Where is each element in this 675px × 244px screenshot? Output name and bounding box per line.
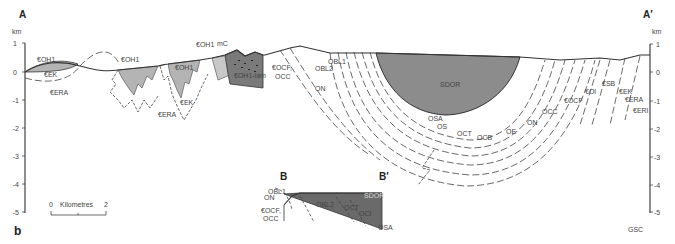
unit-label: €EK xyxy=(619,88,633,95)
unit-label: €OCF, xyxy=(272,64,292,71)
unit-label: €ERI xyxy=(633,107,649,114)
unit-label: €OH1 xyxy=(121,56,139,63)
tick: 0 xyxy=(656,69,660,76)
unit-label: OSA xyxy=(428,115,443,122)
scale-max: 2 xyxy=(104,201,108,208)
scale-label: Kilometres xyxy=(60,201,94,208)
tick: -5 xyxy=(654,209,660,216)
jagged-contacts xyxy=(110,66,434,185)
unit-label: OCI xyxy=(359,210,372,217)
left-depth-axis: km 1 0 -1 -2 -3 -4 -5 xyxy=(12,28,25,216)
unit-label: mC xyxy=(217,40,228,47)
unit-label: OCT xyxy=(457,130,473,137)
unit-label: OCC xyxy=(275,73,291,80)
tick: -5 xyxy=(13,209,19,216)
unit-label: €OCF, xyxy=(261,207,281,214)
unit-label: ON xyxy=(264,194,275,201)
unit-label: €EK xyxy=(180,99,194,106)
tick: 0 xyxy=(13,69,17,76)
unit-label: SDOR xyxy=(440,81,460,88)
tick: -3 xyxy=(13,153,19,160)
unit-label: €OI xyxy=(585,88,596,95)
tick: -4 xyxy=(654,182,660,189)
scale-bar: 0 Kilometres 2 xyxy=(49,201,108,215)
unit-label: OBL2 xyxy=(315,65,333,72)
unit-label: OS xyxy=(437,123,447,130)
inset-section-B: B B′ OBL1 ON €OCF, OCC OBL2 OCT OCI OSA … xyxy=(261,171,393,231)
unit-label: €EK xyxy=(44,71,58,78)
tick: -1 xyxy=(13,97,19,104)
unit-label: OCC xyxy=(542,108,558,115)
tick: 1 xyxy=(13,40,17,47)
unit-label: €OH1 xyxy=(175,64,193,71)
section-start-label-A: A xyxy=(19,9,26,20)
unit-label: €OH1 xyxy=(196,41,214,48)
unit-label: €OCF xyxy=(564,97,583,104)
unit-label: OSA xyxy=(378,224,393,231)
unit-label: €OH1-lam xyxy=(234,72,266,79)
panel-label: b xyxy=(14,224,21,238)
unit-label: OBL2 xyxy=(316,201,334,208)
tick: -3 xyxy=(654,154,660,161)
tick: -4 xyxy=(13,181,19,188)
right-depth-axis: km 1 0 -1 -2 -3 -4 -5 xyxy=(650,28,662,216)
tick: -2 xyxy=(654,126,660,133)
unit-label: €OH1 xyxy=(37,56,55,63)
unit-label: SDOR xyxy=(364,192,384,199)
axis-unit-right: km xyxy=(652,28,662,35)
cross-section-figure: A A′ km 1 0 -1 -2 -3 -4 -5 km 1 0 -1 -2 xyxy=(0,0,675,244)
unit-label: OE xyxy=(506,128,516,135)
tick: -2 xyxy=(13,125,19,132)
section-start-label-B: B xyxy=(280,171,287,182)
tick: -1 xyxy=(654,98,660,105)
axis-unit-left: km xyxy=(12,28,22,35)
tick: 1 xyxy=(656,41,660,48)
unit-label: €SB xyxy=(602,80,616,87)
unit-label: €ERA xyxy=(158,111,177,118)
unit-label: ON xyxy=(315,85,326,92)
unit-label: €ERA xyxy=(625,96,644,103)
unit-label: OBL1 xyxy=(328,58,346,65)
unit-label: OCB xyxy=(477,134,493,141)
unit-label: ON xyxy=(527,119,538,126)
unit-label: OCC xyxy=(263,215,279,222)
section-end-label-A-prime: A′ xyxy=(643,9,653,20)
unit-label: OCT xyxy=(344,204,360,211)
scale-min: 0 xyxy=(49,201,53,208)
credit-label: GSC xyxy=(628,226,643,233)
unit-label: €ERA xyxy=(50,89,69,96)
section-end-label-B-prime: B′ xyxy=(379,171,389,182)
